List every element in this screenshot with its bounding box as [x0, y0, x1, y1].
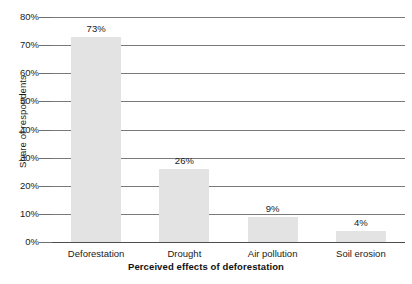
y-axis-tick-label: 80%: [4, 11, 39, 22]
x-axis-category-label: Soil erosion: [311, 248, 411, 259]
bar[interactable]: [248, 217, 298, 242]
y-axis-title: Share of respondents: [17, 42, 28, 202]
bar-value-label: 9%: [243, 203, 303, 214]
bar-value-label: 73%: [66, 23, 126, 34]
y-axis-tick-label: 70%: [4, 39, 39, 50]
x-axis-category-label: Deforestation: [46, 248, 146, 259]
y-axis-tick-label: 10%: [4, 208, 39, 219]
plot-area: [52, 17, 405, 242]
x-axis-title: Perceived effects of deforestation: [0, 261, 412, 272]
y-axis-tick-label: 30%: [4, 152, 39, 163]
y-axis-tick: [39, 101, 52, 102]
y-axis-tick: [39, 242, 52, 243]
y-axis-tick: [39, 45, 52, 46]
y-axis-tick-label: 60%: [4, 67, 39, 78]
x-axis-category-label: Air pollution: [223, 248, 323, 259]
y-axis-tick-label: 40%: [4, 124, 39, 135]
bar[interactable]: [159, 169, 209, 242]
bar[interactable]: [71, 37, 121, 242]
bar-value-label: 26%: [154, 155, 214, 166]
bar-value-label: 4%: [331, 217, 391, 228]
bar[interactable]: [336, 231, 386, 242]
x-axis-category-label: Drought: [134, 248, 234, 259]
y-axis-tick: [39, 186, 52, 187]
gridline: [52, 17, 405, 18]
y-axis-tick-label: 20%: [4, 180, 39, 191]
y-axis-tick-label: 0%: [4, 236, 39, 247]
y-axis-tick-label: 50%: [4, 95, 39, 106]
axis-baseline: [52, 242, 405, 243]
y-axis-tick: [39, 214, 52, 215]
y-axis-tick: [39, 158, 52, 159]
y-axis-tick: [39, 73, 52, 74]
y-axis-tick: [39, 130, 52, 131]
bar-chart: Share of respondents 0%10%20%30%40%50%60…: [0, 0, 412, 284]
y-axis-tick: [39, 17, 52, 18]
